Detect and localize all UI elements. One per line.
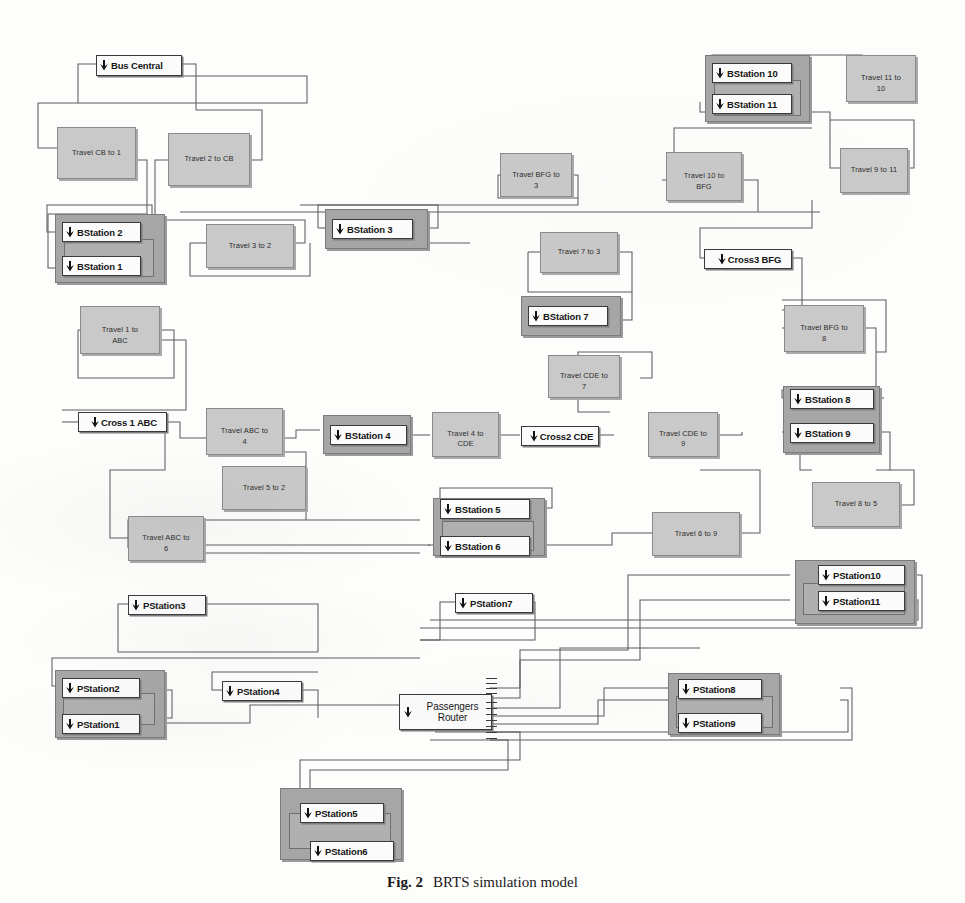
block-travel-cde-to-9[interactable]: Travel CDE to [648, 412, 718, 457]
block-label: PStation4 [236, 686, 279, 697]
block-travel-4-to-cde[interactable]: Travel 4 to [432, 412, 499, 457]
block-travel-abc-to-6-line2: 6 [128, 544, 204, 553]
block-pstation3[interactable]: PStation3 [128, 595, 206, 615]
block-label-line1: Travel ABC to [140, 533, 191, 543]
down-right-arrow-icon [131, 600, 141, 611]
block-bstation-11[interactable]: BStation 11 [712, 94, 792, 114]
block-label: PStation9 [692, 718, 735, 729]
block-label: BStation 10 [726, 68, 778, 79]
block-label: Travel 7 to 3 [556, 247, 603, 257]
figure-caption-text: BRTS simulation model [433, 874, 578, 890]
block-travel-cb-to-1[interactable]: Travel CB to 1 [57, 127, 136, 179]
block-pstation1[interactable]: PStation1 [62, 714, 140, 734]
block-passengers-router[interactable]: Passengers Router [399, 694, 492, 730]
block-pstation11[interactable]: PStation11 [818, 591, 905, 611]
down-right-arrow-icon [681, 684, 691, 695]
block-travel-abc-to-4[interactable]: Travel ABC to [206, 408, 283, 455]
block-cross3-bfg[interactable]: Cross3 BFG [704, 249, 792, 269]
block-travel-7-to-3[interactable]: Travel 7 to 3 [540, 232, 618, 273]
block-label: PStation3 [142, 600, 185, 611]
block-bstation-9[interactable]: BStation 9 [790, 423, 874, 443]
block-label-line1: Travel 11 to [859, 73, 903, 83]
down-right-arrow-icon [821, 570, 831, 581]
block-bstation-5[interactable]: BStation 5 [440, 499, 530, 519]
down-right-arrow-icon [443, 504, 453, 515]
block-label: BStation 7 [542, 311, 588, 322]
block-travel-cde-to-9-line2: 9 [648, 439, 718, 448]
block-label: Travel 2 to CB [182, 154, 235, 164]
block-pstation2[interactable]: PStation2 [62, 678, 140, 698]
down-right-arrow-icon [715, 68, 725, 79]
block-travel-8-to-5[interactable]: Travel 8 to 5 [812, 482, 900, 527]
block-travel-cde-to-7[interactable]: Travel CDE to [548, 355, 620, 398]
block-bstation-2[interactable]: BStation 2 [62, 222, 141, 242]
block-label: Travel 6 to 9 [673, 529, 720, 539]
block-label: PStation10 [832, 570, 881, 581]
router-output-ports [486, 678, 498, 744]
block-label: PStation11 [832, 596, 880, 607]
down-right-arrow-icon [65, 227, 75, 238]
block-pstation8[interactable]: PStation8 [678, 679, 762, 699]
block-pstation10[interactable]: PStation10 [818, 565, 905, 585]
block-travel-3-to-2[interactable]: Travel 3 to 2 [206, 224, 294, 268]
block-travel-9-to-11[interactable]: Travel 9 to 11 [840, 148, 908, 193]
block-label: PStation1 [76, 719, 119, 730]
block-label: PStation7 [469, 598, 512, 609]
down-right-arrow-icon [335, 224, 345, 235]
block-label: Cross3 BFG [728, 254, 781, 265]
block-pstation4[interactable]: PStation4 [222, 681, 302, 701]
block-bstation-8[interactable]: BStation 8 [790, 389, 874, 409]
down-right-arrow-icon [99, 60, 109, 71]
block-label: BStation 1 [76, 261, 122, 272]
block-label: BStation 6 [454, 541, 500, 552]
down-right-arrow-icon [65, 719, 75, 730]
block-label: BStation 2 [76, 227, 122, 238]
block-travel-bfg-to-8[interactable]: Travel BFG to [784, 305, 864, 352]
block-label: PStation2 [76, 683, 119, 694]
block-label: BStation 9 [804, 428, 850, 439]
block-bstation-7[interactable]: BStation 7 [528, 306, 608, 326]
block-bus-central[interactable]: Bus Central [96, 55, 182, 76]
block-label: BStation 8 [804, 394, 850, 405]
block-bstation-4[interactable]: BStation 4 [330, 425, 407, 445]
block-label-line1: Travel BFG to [798, 323, 850, 333]
block-label: Travel 8 to 5 [833, 499, 880, 509]
block-label: BStation 4 [344, 430, 390, 441]
block-bstation-3[interactable]: BStation 3 [332, 219, 413, 239]
block-travel-2-to-cb[interactable]: Travel 2 to CB [168, 133, 250, 186]
block-label: PStation6 [324, 846, 367, 857]
block-bstation-6[interactable]: BStation 6 [440, 536, 530, 556]
block-label: Cross 1 ABC [101, 417, 157, 428]
down-right-arrow-icon [821, 596, 831, 607]
router-label-line1: Passengers [427, 701, 479, 712]
down-right-arrow-icon [65, 261, 75, 272]
block-label: Travel 9 to 11 [849, 165, 899, 175]
block-travel-5-to-2[interactable]: Travel 5 to 2 [222, 466, 306, 510]
figure-caption: Fig. 2BRTS simulation model [0, 874, 965, 891]
block-label: Bus Central [110, 60, 163, 71]
block-label: BStation 5 [454, 504, 500, 515]
block-travel-11-to-10[interactable]: Travel 11 to [846, 55, 916, 102]
figure-caption-label: Fig. 2 [387, 874, 423, 890]
block-cross2-cde[interactable]: Cross2 CDE [521, 426, 599, 446]
block-pstation9[interactable]: PStation9 [678, 713, 762, 733]
down-right-arrow-icon [531, 311, 541, 322]
figure-canvas: Bus Central Travel CB to 1 Travel 2 to C… [0, 0, 965, 903]
block-pstation7[interactable]: PStation7 [455, 593, 533, 613]
block-travel-bfg-to-3[interactable]: Travel BFG to [500, 153, 572, 197]
block-travel-1-to-abc-line2: ABC [80, 336, 160, 345]
block-bstation-1[interactable]: BStation 1 [62, 256, 141, 276]
block-travel-6-to-9[interactable]: Travel 6 to 9 [652, 512, 740, 556]
block-label-line1: Travel CDE to [558, 371, 610, 381]
block-pstation6[interactable]: PStation6 [310, 841, 394, 861]
block-pstation5[interactable]: PStation5 [300, 803, 384, 823]
block-label-line1: Travel BFG to [510, 170, 562, 180]
block-cross-1-abc[interactable]: Cross 1 ABC [78, 412, 167, 432]
down-right-arrow-icon [681, 718, 691, 729]
block-bstation-10[interactable]: BStation 10 [712, 63, 792, 83]
block-travel-11-to-10-line2: 10 [846, 84, 916, 93]
block-travel-abc-to-6[interactable]: Travel ABC to [128, 516, 204, 561]
block-label: Travel 3 to 2 [227, 241, 274, 251]
block-travel-10-to-bfg[interactable]: Travel 10 to [666, 152, 742, 201]
block-travel-1-to-abc[interactable]: Travel 1 to [80, 306, 160, 354]
